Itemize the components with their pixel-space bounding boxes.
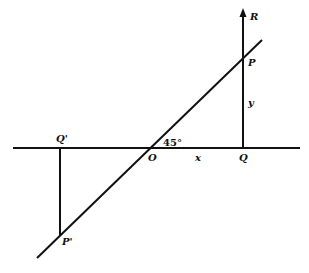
label-angle: 45° bbox=[163, 137, 182, 148]
label-O: O bbox=[148, 152, 157, 163]
diagram-svg: R P y Q' 45° O x Q P' bbox=[0, 0, 309, 273]
label-R: R bbox=[249, 11, 258, 22]
label-Q-prime: Q' bbox=[56, 133, 68, 144]
label-Q: Q bbox=[239, 152, 248, 163]
label-P: P bbox=[247, 57, 256, 68]
label-y: y bbox=[247, 97, 255, 108]
label-P-prime: P' bbox=[61, 236, 73, 247]
arrowhead-icon bbox=[240, 8, 247, 17]
diagram-canvas: R P y Q' 45° O x Q P' bbox=[0, 0, 309, 273]
label-x: x bbox=[194, 152, 202, 163]
